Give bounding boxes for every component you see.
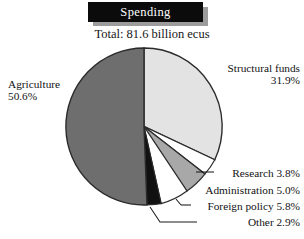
slice-label-structural-funds: Structural funds 31.9% xyxy=(186,62,300,87)
slice-label-administration: Administration 5.0% xyxy=(140,184,300,196)
pie-chart-figure: Spending Total: 81.6 billion ecus xyxy=(0,0,304,239)
slice-label-agriculture: Agriculture 50.6% xyxy=(8,78,60,103)
pie-slice-agriculture xyxy=(66,48,147,205)
slice-label-other: Other 2.9% xyxy=(140,216,300,228)
slice-label-foreign-policy: Foreign policy 5.8% xyxy=(140,200,300,212)
slice-label-research: Research 3.8% xyxy=(150,167,300,179)
